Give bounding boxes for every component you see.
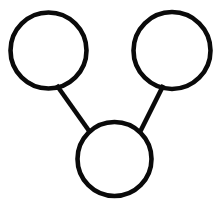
node-link-graph (0, 0, 219, 200)
canvas-background (0, 0, 219, 200)
diagram-canvas (0, 0, 219, 200)
